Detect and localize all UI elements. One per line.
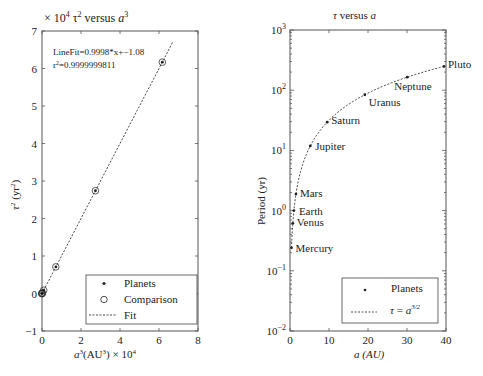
y-tick-label: 5 [32,100,38,112]
legend-comparison: Comparison [124,293,178,305]
planet-label-pluto: Pluto [448,58,472,70]
planet-label-saturn: Saturn [331,114,360,126]
x-tick-label: 6 [156,334,162,346]
planet-point [309,145,312,148]
y-tick-label: 102 [271,82,286,96]
y-tick-label: 103 [271,22,286,36]
left-x-axis-label: a3(AU3) × 104 [74,348,136,361]
x-tick-label: 2 [78,334,84,346]
y-tick-label: 0 [32,288,38,300]
right-chart-tau-vs-a: τ versus a 01020304010−210−1100101102103… [255,9,472,361]
dot-marker-icon [103,282,106,285]
right-legend: Planets τ = a3/2 [342,278,438,323]
right-y-axis-label: Period (yr) [255,177,268,225]
y-tick-label: 100 [271,203,286,217]
x-tick-label: 20 [363,334,375,346]
dot-marker-icon [364,289,367,292]
planet-label-venus: Venus [297,216,324,228]
x-tick-label: 40 [441,334,453,346]
left-y-axis-label: τ2 (yr2) [9,179,22,210]
x-tick-label: 8 [195,334,201,346]
legend-planets: Planets [124,277,156,289]
y-tick-label: 1 [32,250,38,262]
x-tick-label: 0 [287,334,293,346]
right-x-axis-label: a (AU) [354,348,385,361]
planet-point [326,121,329,124]
planet-point [406,76,409,79]
planet-point [290,246,293,249]
x-tick-label: 0 [39,334,45,346]
y-tick-label: 101 [271,142,286,156]
y-tick-label: 4 [32,138,38,150]
y-tick-label: 3 [32,175,38,187]
linefit-annotation: LineFit=0.9998*x+−1.08 [53,47,145,57]
y-tick-label: −1 [25,325,37,337]
planet-label-mercury: Mercury [296,242,334,254]
planet-label-neptune: Neptune [394,80,431,92]
planet-point [295,193,298,196]
planet-label-earth: Earth [299,205,323,217]
planet-point [443,65,446,68]
legend-fit: Fit [124,309,136,321]
legend-planets: Planets [391,282,423,294]
x-tick-label: 4 [117,334,123,346]
planet-point [293,209,296,212]
left-legend: Planets Comparison Fit [86,275,197,324]
y-tick-label: 7 [32,25,38,37]
left-chart-tau2-vs-a3: × 104 τ2 versus a3 02468−101234567 LineF… [9,10,201,361]
planet-point [363,93,366,96]
y-tick-label: 6 [32,63,38,75]
right-chart-title: τ versus a [333,9,377,21]
fit-line [42,42,173,293]
planet-label-uranus: Uranus [369,96,401,108]
planet-point [291,222,294,225]
r-squared-annotation: r2=0.9999999811 [53,60,116,70]
x-tick-label: 10 [324,334,336,346]
y-tick-label: 10−1 [266,263,286,277]
planet-label-jupiter: Jupiter [315,140,345,152]
y-tick-label: 10−2 [266,323,286,337]
figure: × 104 τ2 versus a3 02468−101234567 LineF… [0,0,483,376]
x-tick-label: 30 [402,334,414,346]
y-tick-label: 2 [32,213,38,225]
planet-label-mars: Mars [300,187,323,199]
left-chart-title: × 104 τ2 versus a3 [44,10,128,25]
